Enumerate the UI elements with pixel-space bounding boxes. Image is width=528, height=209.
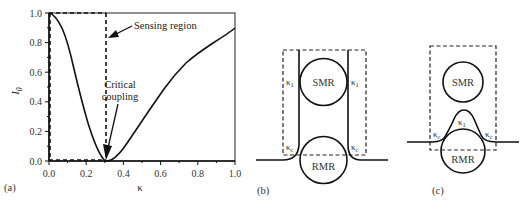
data-curve — [49, 13, 235, 161]
x-tick-label: 0.4 — [117, 168, 130, 179]
smr-label: SMR — [312, 77, 334, 88]
diagram-panel-c: SMR RMR κ1 κc κc (c) — [407, 46, 519, 197]
critical-coupling-label-line2: coupling — [102, 91, 139, 102]
x-tick-labels: 0.0 0.2 0.4 0.6 0.8 1.0 — [43, 168, 242, 179]
rmr-label: RMR — [312, 161, 335, 172]
panel-label-b: (b) — [257, 185, 270, 197]
bus-waveguide-left — [256, 50, 299, 160]
panel-label-c: (c) — [432, 185, 444, 197]
y-tick-labels: 0.0 0.2 0.4 0.6 0.8 1.0 — [30, 8, 43, 167]
y-tick-label: 0.0 — [30, 156, 43, 167]
sensing-box — [283, 50, 366, 155]
rmr-ring — [441, 129, 485, 173]
svg-text:I0: I0 — [10, 87, 24, 96]
x-tick-label: 0.8 — [192, 168, 205, 179]
kappa-1-label: κ1 — [458, 117, 466, 128]
sensing-region-label: Sensing region — [134, 20, 197, 31]
kappa-c-left-label: κc — [286, 142, 294, 153]
figure: 0.0 0.2 0.4 0.6 0.8 1.0 0.0 0.2 0.4 0.6 … — [0, 0, 528, 209]
x-axis-label: κ — [137, 182, 143, 193]
panel-label-a: (a) — [4, 182, 16, 194]
y-tick-label: 0.4 — [30, 96, 43, 107]
diagram-panel-b: SMR RMR κ1 κ1 κc κc (b) — [256, 50, 388, 197]
plot-frame — [49, 13, 235, 161]
rmr-ring — [300, 137, 347, 184]
y-axis-label: I0 — [10, 87, 24, 96]
critical-coupling-label-line1: Critical — [104, 79, 136, 90]
kappa-1-left-label: κ1 — [286, 77, 294, 88]
kappa-c-right-label: κc — [351, 142, 359, 153]
sensing-region-box — [49, 13, 106, 161]
y-tick-label: 0.6 — [30, 67, 43, 78]
y-tick-label: 0.8 — [30, 37, 43, 48]
x-tick-label: 0.0 — [43, 168, 56, 179]
y-tick-label: 1.0 — [30, 8, 43, 19]
kappa-c-right-label: κc — [485, 129, 493, 140]
x-tick-label: 1.0 — [229, 168, 242, 179]
chart-panel-a: 0.0 0.2 0.4 0.6 0.8 1.0 0.0 0.2 0.4 0.6 … — [4, 8, 241, 195]
kappa-c-left-label: κc — [433, 129, 441, 140]
y-tick-label: 0.2 — [30, 126, 43, 137]
sensing-region-arrow — [108, 26, 132, 38]
x-tick-label: 0.6 — [154, 168, 167, 179]
kappa-1-right-label: κ1 — [351, 77, 359, 88]
smr-label: SMR — [452, 77, 474, 88]
x-tick-label: 0.2 — [80, 168, 93, 179]
rmr-label: RMR — [451, 154, 474, 165]
